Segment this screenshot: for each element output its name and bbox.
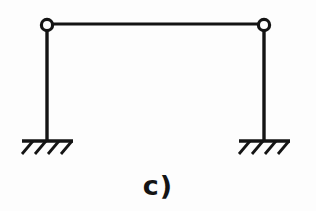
- left-fixed-support-icon: [22, 141, 73, 154]
- figure-caption-label: c): [0, 170, 316, 202]
- figure-container: c): [0, 0, 316, 211]
- support-hatch-mark: [252, 141, 263, 154]
- support-hatch-mark: [35, 141, 46, 154]
- support-hatch-mark: [278, 141, 289, 154]
- support-hatch-mark: [48, 141, 59, 154]
- right-fixed-support-icon: [239, 141, 290, 154]
- support-hatch-mark: [61, 141, 72, 154]
- left-hinge-icon: [41, 19, 52, 30]
- right-hinge-icon: [258, 19, 269, 30]
- support-hatch-mark: [22, 141, 33, 154]
- support-hatch-mark: [265, 141, 276, 154]
- support-hatch-mark: [239, 141, 250, 154]
